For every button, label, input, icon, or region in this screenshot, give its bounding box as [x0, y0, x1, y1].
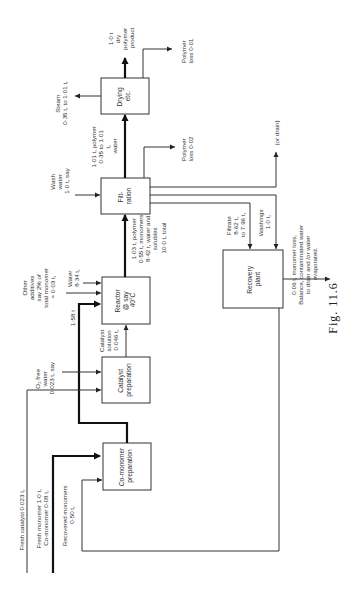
- svg-text:Catalyst preparation: Catalyst preparation: [117, 363, 133, 397]
- product-label: 1·0 t dry polymer product: [107, 26, 135, 50]
- water-reactor-label: Water 8·34 t,: [66, 269, 80, 287]
- filter-cake-label: 1·01 t, polymer 0·35 to 1·01 t, water: [90, 124, 118, 167]
- or-drain-label: (or drain): [273, 120, 280, 145]
- reactor-label-3: 40°C: [129, 292, 136, 307]
- o2-free-water-label: O₂ free water 0·023 t, say: [34, 361, 55, 394]
- polymer-loss-filtration-label: Polymer loss 0·02: [180, 136, 194, 162]
- reactor-block: Reactor @ say 40°C: [102, 277, 150, 324]
- drying-block: Drying etc.: [101, 78, 149, 114]
- figure-caption: Fig. 11.6: [326, 282, 340, 334]
- comonomer-prep-label-2: preparation: [126, 449, 134, 483]
- recovery-plant-block: Recovery plant: [223, 250, 283, 308]
- catalyst-solution-label: Catalyst solution 0·046 t,: [98, 328, 119, 352]
- steam-label: Steam 0·35 t, to 1·01 t,: [54, 81, 68, 125]
- comonomer-preparation-block: Co-monomer preparation: [103, 443, 151, 490]
- catalyst-prep-label-2: preparation: [125, 363, 133, 397]
- drain-line: [150, 152, 276, 187]
- fresh-catalyst-label: Fresh catalyst 0·023 t,: [18, 489, 25, 550]
- filtrate-label: Filtrate 8·62 t, to 7·96 t,: [225, 213, 246, 238]
- polymer-loss-drying-arrow: [143, 49, 172, 78]
- other-additives-label: Other additives say 2% of total monomer …: [21, 266, 56, 307]
- reactor-label: Reactor: [114, 289, 121, 313]
- svg-text:Co-monomer preparation: Co-monomer preparation: [118, 446, 134, 486]
- comonomer-prep-label: Co-monomer: [118, 447, 125, 486]
- recovered-monomers-label: Recovered monomers 0·50 t,: [61, 484, 75, 547]
- monomer-feed-label: 1·58 t: [69, 310, 76, 326]
- washings-label: Washings 1·0 t,: [257, 208, 271, 237]
- fresh-monomer-label: Fresh monomer 1·0 t, Co-monomer 0·08 t,: [35, 487, 49, 548]
- polymer-loss-drying-label: Polymer loss 0·01: [180, 38, 194, 64]
- recovery-output-label: 0·06 t, monomer loss, Balance, contamina…: [290, 223, 318, 305]
- drying-label-2: etc.: [124, 91, 131, 102]
- filtration-block: Filt- ration: [101, 178, 150, 214]
- polymer-loss-filtration-arrow: [144, 147, 175, 178]
- process-flow-diagram: Drying etc. Filt- ration Reactor @ say 4…: [0, 0, 348, 605]
- wash-water-label: Wash water 1·0 t, say: [49, 167, 70, 193]
- recovery-label-2: plant: [254, 272, 262, 286]
- filtration-label-2: ration: [125, 187, 132, 204]
- filtration-label: Filt-: [117, 191, 124, 202]
- reactor-output-label: 1·03 t, polymer 0·55 t, monomers 8·42 t,…: [130, 213, 167, 263]
- catalyst-preparation-block: Catalyst preparation: [102, 357, 150, 403]
- recovered-monomer-feed-arrow: [82, 480, 102, 551]
- svg-text:Filt- ration: Filt- ration: [117, 187, 132, 204]
